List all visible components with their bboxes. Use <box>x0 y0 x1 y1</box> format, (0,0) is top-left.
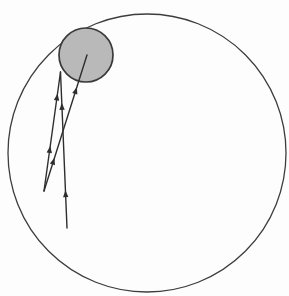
direction-arrowhead <box>47 146 52 153</box>
diagram-svg <box>0 0 289 296</box>
physics-trajectory-diagram <box>0 0 289 296</box>
direction-arrowhead <box>72 87 77 94</box>
direction-arrowhead <box>59 103 64 110</box>
left-chord-line <box>44 72 61 191</box>
vertical-ascent-line <box>61 72 68 228</box>
direction-arrowhead <box>54 94 59 101</box>
right-chord-line <box>44 55 87 191</box>
direction-arrowhead <box>50 158 55 165</box>
shaded-ball <box>59 28 113 82</box>
direction-arrowhead <box>63 190 68 197</box>
